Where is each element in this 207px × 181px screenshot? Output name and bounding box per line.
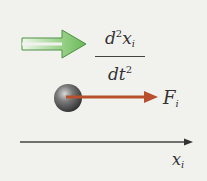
x-axis-icon bbox=[20, 139, 193, 146]
second-derivative-label: d2xi dt2 bbox=[95, 24, 145, 84]
force-label: Fi bbox=[163, 87, 179, 109]
fraction-bar bbox=[95, 56, 145, 57]
axis-label: xi bbox=[172, 150, 184, 170]
green-arrow-icon bbox=[22, 30, 86, 58]
